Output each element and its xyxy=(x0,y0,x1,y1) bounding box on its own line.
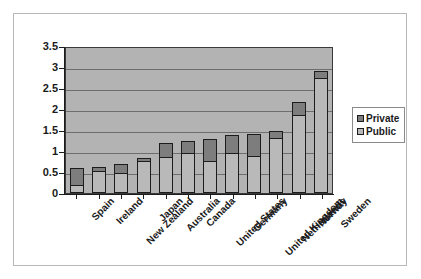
y-axis-tick-label: 3 xyxy=(18,62,58,73)
bar-stack[interactable] xyxy=(114,164,128,193)
bar-segment-private[interactable] xyxy=(293,103,305,115)
y-axis-tick xyxy=(59,152,64,153)
plot-area xyxy=(65,47,333,194)
bar-stack[interactable] xyxy=(70,168,84,193)
bar-column[interactable] xyxy=(70,48,84,193)
y-axis-tick xyxy=(59,194,64,195)
x-axis-tick xyxy=(143,195,144,199)
y-axis-tick xyxy=(59,47,64,48)
x-axis-tick xyxy=(322,195,323,199)
bar-segment-private[interactable] xyxy=(248,135,260,155)
bar-segment-private[interactable] xyxy=(160,144,172,157)
y-axis-tick xyxy=(59,89,64,90)
bar-column[interactable] xyxy=(114,48,128,193)
bar-column[interactable] xyxy=(247,48,261,193)
y-axis-tick-label: 2 xyxy=(18,104,58,115)
bar-segment-public[interactable] xyxy=(315,78,327,192)
bar-stack[interactable] xyxy=(314,71,328,193)
bar-stack[interactable] xyxy=(137,158,151,193)
x-axis-tick xyxy=(277,195,278,199)
bar-segment-public[interactable] xyxy=(115,173,127,192)
y-axis-labels: 3.532.521.510.50 xyxy=(14,14,58,279)
x-axis-labels: SpainIrelandNew ZealandJapanAustraliaCan… xyxy=(65,196,333,266)
x-axis-tick xyxy=(210,195,211,199)
bar-stack[interactable] xyxy=(225,135,239,193)
bar-segment-private[interactable] xyxy=(115,165,127,174)
bar-segment-private[interactable] xyxy=(182,142,194,153)
bar-segment-public[interactable] xyxy=(293,115,305,192)
bar-column[interactable] xyxy=(269,48,283,193)
x-axis-tick xyxy=(121,195,122,199)
bar-column[interactable] xyxy=(181,48,195,193)
bar-segment-public[interactable] xyxy=(270,138,282,192)
bar-stack[interactable] xyxy=(292,102,306,193)
bar-segment-public[interactable] xyxy=(93,171,105,192)
bar-segment-public[interactable] xyxy=(138,161,150,192)
bar-column[interactable] xyxy=(137,48,151,193)
bar-segment-public[interactable] xyxy=(248,156,260,193)
y-axis-tick xyxy=(59,131,64,132)
y-axis-tick-label: 0 xyxy=(18,188,58,199)
bar-stack[interactable] xyxy=(92,167,106,193)
x-axis-tick xyxy=(300,195,301,199)
x-axis-line xyxy=(59,194,334,195)
legend-item-label: Private xyxy=(366,112,399,125)
bar-stack[interactable] xyxy=(181,141,195,194)
bar-column[interactable] xyxy=(159,48,173,193)
x-axis-tick-label: Spain xyxy=(90,196,116,222)
x-axis-tick-label: Ireland xyxy=(114,196,144,226)
bar-segment-public[interactable] xyxy=(226,153,238,192)
bar-column[interactable] xyxy=(292,48,306,193)
legend-swatch-icon xyxy=(357,128,364,135)
bar-segment-public[interactable] xyxy=(182,153,194,192)
x-axis-tick xyxy=(233,195,234,199)
bar-stack[interactable] xyxy=(247,134,261,193)
bar-segment-public[interactable] xyxy=(71,185,83,192)
bar-segment-private[interactable] xyxy=(71,169,83,186)
legend-item[interactable]: Public xyxy=(357,125,399,138)
bar-stack[interactable] xyxy=(269,131,283,193)
x-axis-tick xyxy=(166,195,167,199)
bar-segment-public[interactable] xyxy=(204,161,216,192)
y-axis-tick-label: 3.5 xyxy=(18,41,58,52)
bar-segment-private[interactable] xyxy=(204,140,216,161)
bar-column[interactable] xyxy=(92,48,106,193)
x-axis-tick-label: Germany xyxy=(251,196,289,234)
chart-legend: PrivatePublic xyxy=(352,107,405,143)
bar-column[interactable] xyxy=(314,48,328,193)
bar-column[interactable] xyxy=(203,48,217,193)
legend-swatch-icon xyxy=(357,115,364,122)
legend-item-label: Public xyxy=(366,125,396,138)
x-axis-tick xyxy=(76,195,77,199)
bar-stack[interactable] xyxy=(203,139,217,193)
bar-stack[interactable] xyxy=(159,143,173,193)
bar-column[interactable] xyxy=(225,48,239,193)
y-axis-tick xyxy=(59,173,64,174)
y-axis-tick xyxy=(59,68,64,69)
bar-series-group xyxy=(66,48,332,193)
y-axis-tick-label: 2.5 xyxy=(18,83,58,94)
legend-item[interactable]: Private xyxy=(357,112,399,125)
bar-segment-private[interactable] xyxy=(315,72,327,79)
x-axis-tick xyxy=(99,195,100,199)
y-axis-tick-label: 1 xyxy=(18,146,58,157)
chart-frame: 3.532.521.510.50 SpainIrelandNew Zealand… xyxy=(13,13,407,266)
bar-segment-public[interactable] xyxy=(160,157,172,192)
x-axis-tick xyxy=(255,195,256,199)
y-axis-tick xyxy=(59,110,64,111)
bar-segment-private[interactable] xyxy=(226,136,238,153)
x-axis-tick xyxy=(188,195,189,199)
y-axis-tick-label: 0.5 xyxy=(18,167,58,178)
y-axis-tick-label: 1.5 xyxy=(18,125,58,136)
